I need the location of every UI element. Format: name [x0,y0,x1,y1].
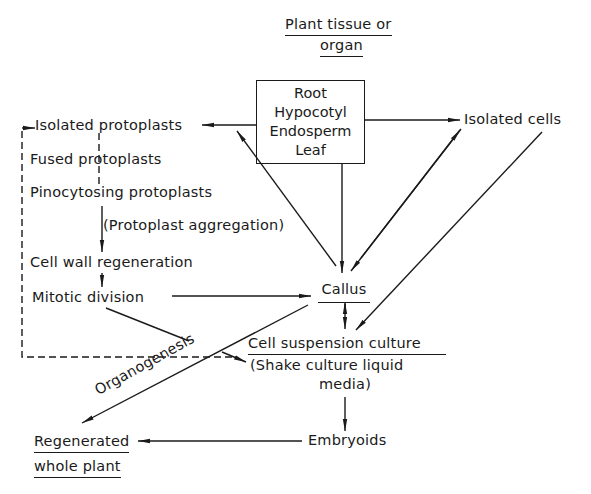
diagram-connectors [0,0,591,494]
box-item-root: Root [257,84,364,103]
node-cell-wall-regeneration: Cell wall regeneration [30,254,193,271]
node-mitotic-division: Mitotic division [32,289,144,306]
node-embryoids: Embryoids [308,432,387,449]
node-isolated-protoplasts: Isolated protoplasts [35,117,182,134]
node-isolated-cells: Isolated cells [464,111,561,128]
source-tissue-box: Root Hypocotyl Endosperm Leaf [256,80,365,164]
title-line2: organ [320,37,363,57]
arrow-isolated-cells-to-suspension [356,132,542,330]
node-pinocytosing-protoplasts: Pinocytosing protoplasts [30,184,212,201]
node-shake-culture-line1: (Shake culture liquid [250,357,403,374]
title-line1: Plant tissue or [285,16,392,36]
node-protoplast-aggregation: (Protoplast aggregation) [103,217,284,234]
node-fused-protoplasts: Fused protoplasts [30,151,162,168]
node-cell-suspension-culture: Cell suspension culture [248,335,446,355]
node-regenerated-line1: Regenerated [34,433,129,453]
arrow-callus-to-isolated-cells [361,130,460,258]
box-item-hypocotyl: Hypocotyl [257,103,364,122]
box-item-endosperm: Endosperm [257,122,364,141]
box-item-leaf: Leaf [257,141,364,160]
node-regenerated-line2: whole plant [34,458,121,478]
node-callus: Callus [318,281,370,303]
node-shake-culture-line2: media) [319,376,371,393]
